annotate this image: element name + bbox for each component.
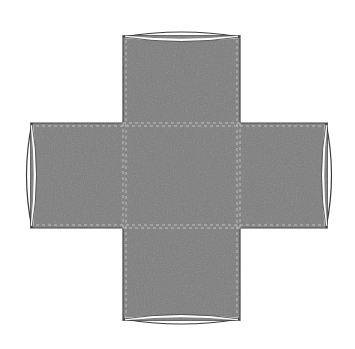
cross-net-diagram [0,0,355,349]
cross-body [30,35,328,321]
